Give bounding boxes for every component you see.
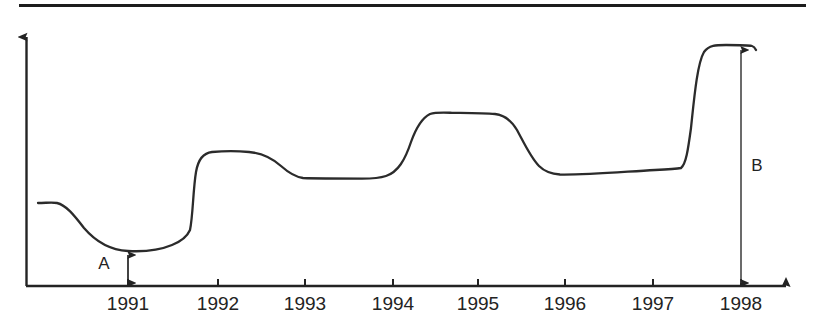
- x-tick-label-1994: 1994: [372, 293, 415, 314]
- annotation-a: A: [98, 254, 128, 283]
- x-tick-label-1992: 1992: [197, 293, 239, 314]
- annotation-b-label: B: [751, 156, 762, 175]
- x-tick-label-1993: 1993: [284, 293, 326, 314]
- chart-figure: A B 1991 1992 1993 1994 1995 1996 1997 1…: [0, 0, 824, 330]
- annotation-b: B: [741, 50, 763, 283]
- x-axis-tick-labels: 1991 1992 1993 1994 1995 1996 1997 1998: [107, 293, 762, 314]
- data-curve: [38, 45, 756, 251]
- chart-svg: A B 1991 1992 1993 1994 1995 1996 1997 1…: [0, 0, 824, 330]
- annotation-a-label: A: [98, 254, 110, 273]
- x-tick-label-1998: 1998: [720, 293, 762, 314]
- x-tick-label-1995: 1995: [457, 293, 499, 314]
- x-tick-label-1996: 1996: [544, 293, 586, 314]
- x-tick-label-1997: 1997: [632, 293, 674, 314]
- x-tick-label-1991: 1991: [107, 293, 149, 314]
